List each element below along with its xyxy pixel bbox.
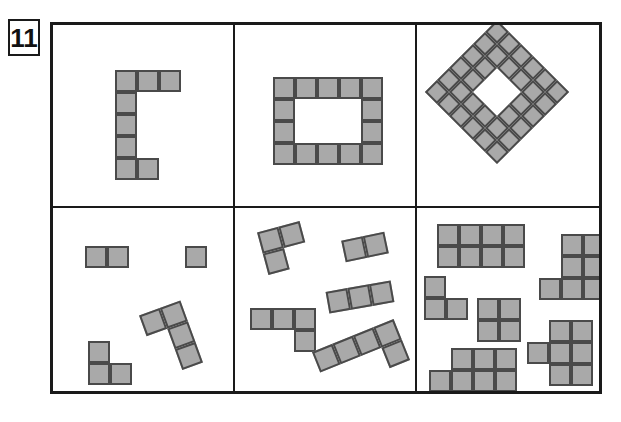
polyomino-cell [527, 342, 549, 364]
polyomino-cell [583, 256, 599, 278]
polyomino-l-pentomino-rotated[interactable] [312, 319, 410, 391]
polyomino-domino-rotated[interactable] [341, 232, 389, 263]
polyomino-cell [571, 342, 593, 364]
polyomino-cell [451, 370, 473, 391]
polyomino-cell [317, 77, 339, 99]
polyomino-p-heptomino-bottom-left[interactable] [429, 348, 517, 391]
polyomino-cell [294, 308, 316, 330]
polyomino-cell [477, 320, 499, 342]
polyomino-cell [561, 278, 583, 300]
polyomino-cell [424, 276, 446, 298]
polyomino-cell [459, 224, 481, 246]
polyomino-cell [481, 224, 503, 246]
polyomino-l-tetromino[interactable] [250, 308, 316, 352]
polyomino-cell [437, 224, 459, 246]
polyomino-domino[interactable] [85, 246, 129, 268]
polyomino-cell [361, 77, 383, 99]
polyomino-cell [273, 77, 295, 99]
polyomino-square-tetromino[interactable] [477, 298, 521, 342]
task-number-label: 11 [10, 25, 38, 51]
panel-c-shape[interactable] [53, 25, 235, 208]
polyomino-cell [295, 143, 317, 165]
polyomino-cell [473, 348, 495, 370]
polyomino-cell [273, 143, 295, 165]
polyomino-cell [361, 99, 383, 121]
polyomino-cell [88, 363, 110, 385]
polyomino-cell [317, 143, 339, 165]
polyomino-cell [363, 232, 389, 258]
polyomino-cell [369, 280, 394, 305]
panel-rectangular-ring[interactable] [235, 25, 417, 208]
polyomino-cell [561, 256, 583, 278]
polyomino-cell [110, 363, 132, 385]
polyomino-cell [583, 278, 599, 300]
polyomino-l-tromino[interactable] [88, 341, 132, 385]
polyomino-cell [115, 114, 137, 136]
panel-small-scattered-pieces[interactable] [53, 208, 235, 391]
panel-rotated-pieces[interactable] [235, 208, 417, 391]
polyomino-cell [250, 308, 272, 330]
polyomino-diamond-square-ring[interactable] [425, 25, 569, 164]
polyomino-cell [437, 246, 459, 268]
polyomino-cell [115, 136, 137, 158]
polyomino-rectangle-4x2[interactable] [437, 224, 525, 268]
polyomino-cell [295, 77, 317, 99]
polyomino-cell [499, 298, 521, 320]
polyomino-cell [273, 99, 295, 121]
polyomino-monomino[interactable] [185, 246, 207, 268]
polyomino-cell [85, 246, 107, 268]
polyomino-p-heptomino-bottom-right[interactable] [527, 320, 593, 386]
polyomino-cell [107, 246, 129, 268]
polyomino-cell [571, 364, 593, 386]
polyomino-cell [424, 298, 446, 320]
polyomino-l-tromino-small[interactable] [424, 276, 468, 320]
polyomino-cell [115, 158, 137, 180]
polyomino-cell [539, 278, 561, 300]
polyomino-cell [549, 342, 571, 364]
polyomino-j-tetromino[interactable] [139, 300, 203, 377]
polyomino-cell [473, 370, 495, 391]
polyomino-cell [294, 330, 316, 352]
polyomino-cell [115, 70, 137, 92]
polyomino-l-tromino-rotated[interactable] [257, 221, 311, 275]
polyomino-cell [185, 246, 207, 268]
polyomino-cell [495, 370, 517, 391]
polyomino-c-pentomino-hexomino[interactable] [115, 70, 181, 180]
polyomino-cell [339, 77, 361, 99]
polyomino-cell [429, 370, 451, 391]
polyomino-cell [503, 224, 525, 246]
polyomino-i-tromino-rotated[interactable] [326, 280, 395, 313]
polyomino-cell [495, 348, 517, 370]
polyomino-cell [115, 92, 137, 114]
task-number-badge: 11 [8, 19, 40, 56]
polyomino-cell [361, 121, 383, 143]
polyomino-cell [278, 221, 305, 248]
polyomino-rectangular-ring[interactable] [273, 77, 383, 165]
polyomino-cell [481, 246, 503, 268]
worksheet-page: 11 [0, 0, 621, 422]
polyomino-cell [477, 298, 499, 320]
polyomino-cell [272, 308, 294, 330]
polyomino-cell [339, 143, 361, 165]
polyomino-cell [561, 234, 583, 256]
polyomino-cell [159, 70, 181, 92]
polyomino-cell [446, 298, 468, 320]
polyomino-cell [549, 320, 571, 342]
polyomino-cell [361, 143, 383, 165]
polyomino-cell [273, 121, 295, 143]
polyomino-cell [549, 364, 571, 386]
panel-grid [50, 22, 602, 394]
polyomino-cell [583, 234, 599, 256]
polyomino-cell [499, 320, 521, 342]
panel-diamond-ring[interactable] [417, 25, 599, 208]
polyomino-cell [263, 248, 290, 275]
polyomino-cell [137, 70, 159, 92]
polyomino-cell [137, 158, 159, 180]
polyomino-cell [503, 246, 525, 268]
panel-large-pieces[interactable] [417, 208, 599, 391]
polyomino-cell [571, 320, 593, 342]
polyomino-cell [88, 341, 110, 363]
polyomino-p-heptomino-top-right[interactable] [539, 234, 599, 300]
polyomino-cell [459, 246, 481, 268]
polyomino-cell [451, 348, 473, 370]
